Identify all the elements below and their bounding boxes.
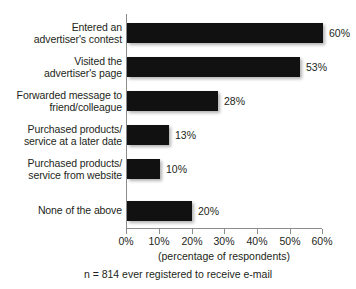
bar-group: 28%	[127, 91, 245, 111]
x-axis-tick	[126, 229, 127, 234]
bar	[127, 201, 192, 221]
x-tick-label: 30%	[213, 235, 234, 247]
x-axis-tick-labels: 0% 10% 20% 30% 40% 50% 60%	[0, 235, 356, 249]
bar	[127, 23, 323, 43]
category-label: Visited the advertiser's page	[0, 56, 122, 79]
plot-area: Entered an advertiser's contest 60% Visi…	[0, 0, 356, 232]
x-axis-tick	[192, 229, 193, 234]
x-axis-tick	[257, 229, 258, 234]
category-label: None of the above	[0, 205, 122, 217]
bar-value-label: 10%	[166, 164, 187, 175]
x-tick-label: 40%	[246, 235, 267, 247]
bar-group: 60%	[127, 23, 350, 43]
bar	[127, 57, 300, 77]
x-tick-label: 10%	[148, 235, 169, 247]
x-tick-label: 0%	[118, 235, 133, 247]
x-axis-tick	[224, 229, 225, 234]
category-label: Entered an advertiser's contest	[0, 22, 122, 45]
bar-group: 13%	[127, 125, 196, 145]
category-label: Purchased products/ service from website	[0, 158, 122, 181]
bar-group: 20%	[127, 201, 219, 221]
bar-row: Entered an advertiser's contest 60%	[0, 16, 356, 50]
bar	[127, 125, 169, 145]
bar-row: Forwarded message to friend/colleague 28…	[0, 84, 356, 118]
bar-row: Visited the advertiser's page 53%	[0, 50, 356, 84]
x-axis-tick	[159, 229, 160, 234]
bar-value-label: 20%	[198, 206, 219, 217]
x-axis-label: (percentage of respondents)	[126, 250, 322, 262]
category-label: Purchased products/ service at a later d…	[0, 124, 122, 147]
bar-row: Purchased products/ service from website…	[0, 152, 356, 186]
x-tick-label: 20%	[181, 235, 202, 247]
bar-chart-figure: Entered an advertiser's contest 60% Visi…	[0, 0, 356, 289]
bar-row: Purchased products/ service at a later d…	[0, 118, 356, 152]
bar-value-label: 28%	[224, 96, 245, 107]
bar-value-label: 13%	[175, 130, 196, 141]
bar-row: None of the above 20%	[0, 194, 356, 228]
bar-value-label: 60%	[329, 28, 350, 39]
bar-group: 53%	[127, 57, 327, 77]
category-label: Forwarded message to friend/colleague	[0, 90, 122, 113]
x-axis-tick	[290, 229, 291, 234]
bar	[127, 91, 218, 111]
bar-value-label: 53%	[306, 62, 327, 73]
x-tick-label: 50%	[279, 235, 300, 247]
x-axis-tick	[322, 229, 323, 234]
bar-rows: Entered an advertiser's contest 60% Visi…	[0, 16, 356, 228]
bar-group: 10%	[127, 159, 187, 179]
chart-annotation: n = 814 ever registered to receive e-mai…	[0, 268, 356, 281]
bar	[127, 159, 160, 179]
x-tick-label: 60%	[311, 235, 332, 247]
